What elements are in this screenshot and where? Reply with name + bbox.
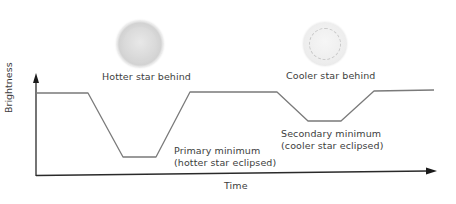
secondary-minimum-sublabel: (cooler star eclipsed) — [281, 140, 384, 152]
y-axis-label: Brightness — [3, 62, 14, 113]
secondary-minimum-label: Secondary minimum — [281, 128, 381, 140]
x-axis — [36, 171, 428, 176]
x-axis-arrow-icon — [426, 168, 437, 175]
primary-minimum-sublabel: (hotter star eclipsed) — [174, 157, 276, 169]
y-axis-arrow-icon — [33, 73, 39, 83]
x-axis-label: Time — [224, 180, 248, 192]
light-curve-diagram: Hotter star behind Cooler star behind Br… — [0, 0, 456, 204]
chart-svg — [0, 0, 456, 204]
primary-minimum-label: Primary minimum — [174, 145, 260, 157]
